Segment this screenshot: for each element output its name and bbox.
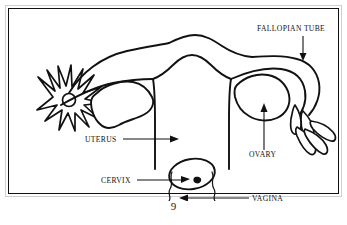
label-fallopian-tube: FALLOPIAN TUBE [257, 24, 325, 33]
right-fimbriae-fingers-icon [291, 105, 336, 155]
reproductive-system-diagram: FALLOPIAN TUBE UTERUS OVARY [9, 9, 346, 201]
figure-frame-outer: FALLOPIAN TUBE UTERUS OVARY [5, 5, 342, 197]
label-cervix: CERVIX [101, 176, 131, 185]
figure-frame-inner: FALLOPIAN TUBE UTERUS OVARY [8, 8, 339, 194]
label-ovary: OVARY [249, 150, 277, 159]
page-canvas: FALLOPIAN TUBE UTERUS OVARY [0, 0, 347, 225]
arrowhead-right-icon [170, 136, 179, 143]
cervix-oval [167, 155, 218, 193]
annotation-uterus: UTERUS [85, 135, 179, 144]
right-ovary [234, 74, 289, 120]
page-number: 9 [0, 200, 347, 212]
label-uterus: UTERUS [85, 135, 117, 144]
